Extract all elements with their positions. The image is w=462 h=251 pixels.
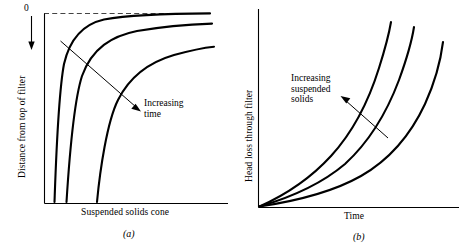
curve-low-solids xyxy=(260,42,444,207)
increasing-time-annotation-line2: time xyxy=(144,109,184,120)
zero-label: 0 xyxy=(24,3,29,13)
x-axis-label-a: Suspended solids cone xyxy=(81,207,169,217)
increasing-time-arrow xyxy=(61,41,142,112)
increasing-time-annotation: Increasing time xyxy=(144,98,184,119)
panel-caption-b: (b) xyxy=(353,231,365,242)
figure-container: 0 Distance from top of filter Suspended … xyxy=(0,0,462,251)
curve-late-time xyxy=(97,47,214,202)
y-axis-label-a: Distance from top of filter xyxy=(17,76,27,178)
panel-b: Head loss through filter Time (b) Increa… xyxy=(231,0,462,251)
increasing-time-annotation-line1: Increasing xyxy=(144,98,184,109)
increasing-solids-annotation-line1: Increasing xyxy=(291,73,331,84)
panel-caption-a: (a) xyxy=(123,228,135,239)
x-axis-label-b: Time xyxy=(344,211,364,221)
y-axis-label-b: Head loss through filter xyxy=(244,90,254,182)
increasing-solids-annotation-line2: suspended xyxy=(291,84,331,95)
depth-direction-arrow xyxy=(28,16,34,50)
panel-a: 0 Distance from top of filter Suspended … xyxy=(0,0,231,251)
curve-medium-solids xyxy=(260,27,415,207)
increasing-solids-annotation-line3: solids xyxy=(291,94,331,105)
increasing-solids-annotation: Increasing suspended solids xyxy=(291,73,331,105)
